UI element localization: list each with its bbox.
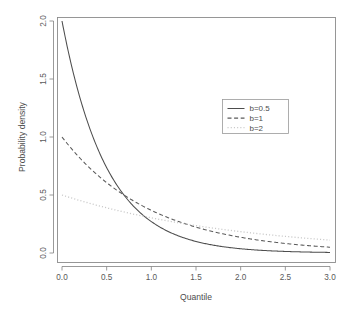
x-tick-label: 3.0 bbox=[324, 273, 336, 282]
x-tick-label: 1.0 bbox=[146, 273, 158, 282]
y-tick-label: 1.5 bbox=[39, 73, 48, 85]
y-tick-label: 2.0 bbox=[39, 15, 48, 27]
legend-label: b=1 bbox=[250, 114, 264, 123]
data-series-group bbox=[62, 21, 330, 252]
legend-label: b=2 bbox=[250, 124, 264, 133]
legend-label: b=0.5 bbox=[250, 104, 271, 113]
y-tick-label: 1.0 bbox=[39, 131, 48, 143]
x-tick-label: 2.0 bbox=[235, 273, 247, 282]
x-tick-label: 2.5 bbox=[280, 273, 292, 282]
series-line-b-0-5 bbox=[62, 21, 330, 252]
x-axis-title: Quantile bbox=[180, 292, 212, 302]
y-tick-label: 0.0 bbox=[39, 247, 48, 259]
chart-canvas: 0.00.51.01.52.02.53.0Quantile0.00.51.01.… bbox=[0, 0, 350, 318]
legend: b=0.5b=1b=2 bbox=[223, 100, 289, 134]
y-axis: 0.00.51.01.52.0Probability density bbox=[17, 15, 54, 259]
exponential-density-chart: 0.00.51.01.52.02.53.0Quantile0.00.51.01.… bbox=[0, 0, 350, 318]
x-tick-label: 0.0 bbox=[56, 273, 68, 282]
series-line-b-1 bbox=[62, 137, 330, 247]
series-line-b-2 bbox=[62, 195, 330, 240]
x-axis: 0.00.51.01.52.02.53.0Quantile bbox=[56, 267, 336, 303]
x-tick-label: 0.5 bbox=[101, 273, 113, 282]
x-tick-label: 1.5 bbox=[190, 273, 202, 282]
y-tick-label: 0.5 bbox=[39, 189, 48, 201]
y-axis-title: Probability density bbox=[17, 101, 27, 171]
